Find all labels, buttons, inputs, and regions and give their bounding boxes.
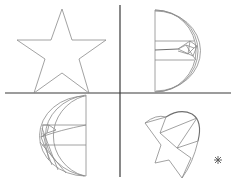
- asterisk-marker-icon: [214, 156, 222, 164]
- diagram-canvas: [0, 0, 237, 189]
- rotated-star-shape: [145, 112, 200, 178]
- mirrored-half-disc-shape: [40, 95, 86, 176]
- half-disc-shape: [155, 10, 200, 92]
- star-shape: [17, 9, 106, 93]
